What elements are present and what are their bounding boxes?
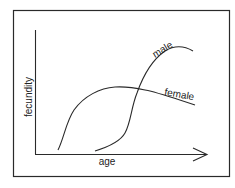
y-axis-label: fecundity xyxy=(23,77,34,117)
diagram-frame xyxy=(14,11,230,177)
fecundity-age-diagram: fecundity age male female xyxy=(0,0,235,188)
male-label: male xyxy=(150,39,175,60)
x-axis-label: age xyxy=(99,156,116,167)
